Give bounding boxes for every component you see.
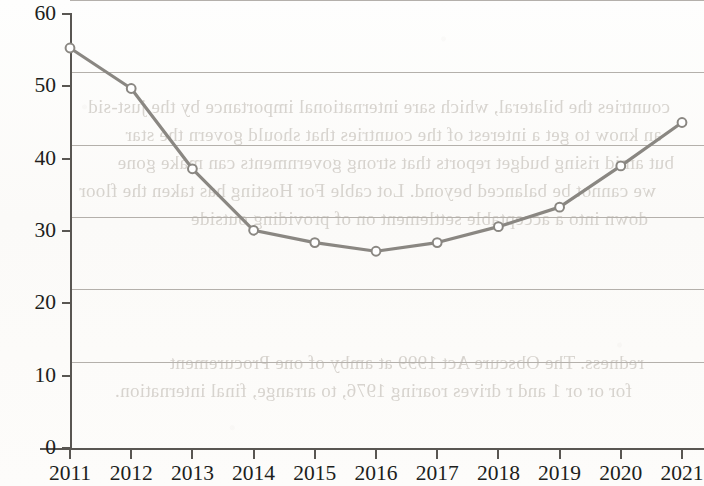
data-point-marker [616, 162, 625, 171]
line-chart: countries the bilateral, which sare inte… [0, 0, 704, 486]
series-line [70, 48, 682, 251]
data-point-marker [555, 203, 564, 212]
data-point-marker [188, 164, 197, 173]
data-point-marker [310, 238, 319, 247]
data-point-marker [127, 84, 136, 93]
data-point-marker [372, 247, 381, 256]
data-point-marker [249, 226, 258, 235]
data-point-marker [494, 222, 503, 231]
series-plot [0, 0, 704, 486]
data-point-marker [66, 44, 75, 53]
data-point-marker [678, 118, 687, 127]
data-point-marker [433, 238, 442, 247]
